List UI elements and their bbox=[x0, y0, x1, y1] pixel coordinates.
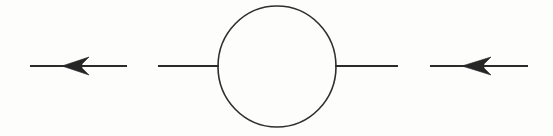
diagram-canvas: One-loop self-energy Feynman diagram Two… bbox=[0, 0, 553, 136]
loop-circle bbox=[218, 6, 336, 127]
feynman-diagram-figure: One-loop self-energy Feynman diagram Two… bbox=[0, 0, 553, 136]
